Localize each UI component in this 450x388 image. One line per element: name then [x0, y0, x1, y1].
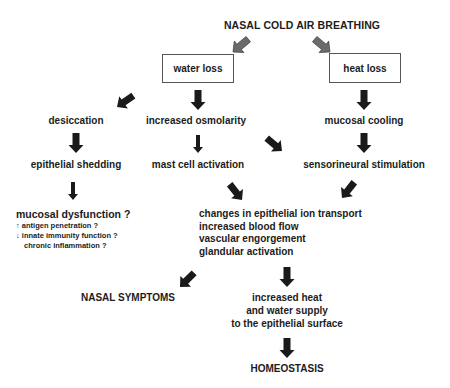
arrow-osmolarity-to-sensorineural — [262, 132, 287, 156]
arrow-water-loss-to-desiccation — [113, 89, 138, 113]
arrow-cooling-to-sensorineural — [357, 133, 372, 153]
heat-loss-box: heat loss — [329, 53, 401, 83]
arrow-mast-cell-to-responses — [224, 180, 248, 205]
response-vascular-engorgement: vascular engorgement — [199, 233, 362, 246]
node-epithelial-shedding: epithelial shedding — [31, 159, 122, 171]
node-mucosal-cooling: mucosal cooling — [325, 115, 404, 127]
node-mast-cell-activation: mast cell activation — [152, 159, 244, 171]
arrow-up-icon: ↑ — [16, 221, 20, 230]
node-mucosal-dysfunction: mucosal dysfunction ? — [16, 208, 130, 220]
water-loss-box: water loss — [162, 54, 234, 83]
node-heat-water-supply: increased heat and water supply to the e… — [231, 291, 343, 330]
arrow-water-loss-to-osmolarity — [191, 90, 206, 110]
arrow-desiccation-to-shedding — [69, 133, 84, 153]
arrow-responses-to-supply — [280, 267, 295, 287]
arrow-responses-to-symptoms — [175, 268, 200, 293]
diagram-title: NASAL COLD AIR BREATHING — [224, 19, 380, 31]
arrow-heat-loss-to-mucosal-cooling — [357, 90, 372, 110]
response-ion-transport: changes in epithelial ion transport — [199, 208, 362, 221]
arrow-shedding-to-dysfunction — [68, 182, 78, 200]
arrow-down-icon: ↓ — [16, 231, 20, 240]
response-glandular-activation: glandular activation — [199, 246, 362, 259]
dysfunction-detail-1: ↑ antigen penetration ? — [16, 221, 98, 231]
responses-block: changes in epithelial ion transport incr… — [199, 208, 362, 258]
node-increased-osmolarity: increased osmolarity — [146, 115, 246, 127]
arrow-osmolarity-to-mast-cell — [193, 135, 203, 153]
node-desiccation: desiccation — [48, 115, 103, 127]
node-nasal-symptoms: NASAL SYMPTOMS — [81, 292, 175, 304]
dysfunction-detail-3: chronic inflammation ? — [24, 241, 107, 251]
dysfunction-detail-2: ↓ innate immunity function ? — [16, 231, 118, 241]
node-homeostasis: HOMEOSTASIS — [250, 363, 323, 375]
response-blood-flow: increased blood flow — [199, 221, 362, 234]
node-sensorineural-stimulation: sensorineural stimulation — [303, 159, 425, 171]
arrow-sensorineural-to-responses — [336, 178, 360, 203]
arrow-supply-to-homeostasis — [280, 338, 295, 358]
